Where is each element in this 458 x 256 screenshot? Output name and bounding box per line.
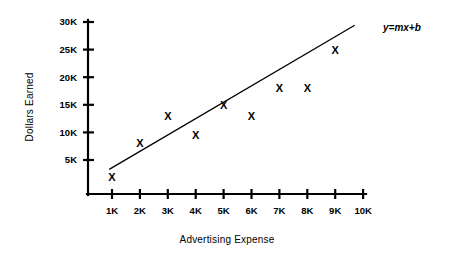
- data-point-marker: X: [136, 137, 144, 149]
- data-point-marker: X: [276, 82, 284, 94]
- y-tick-label: 25K: [60, 44, 78, 55]
- x-tick-label: 7K: [273, 205, 285, 216]
- x-tick-label: 2K: [134, 205, 146, 216]
- x-tick-label: 4K: [190, 205, 202, 216]
- data-point-marker: X: [220, 99, 228, 111]
- x-tick-label: 1K: [106, 205, 118, 216]
- y-tick-label: 20K: [60, 72, 78, 83]
- x-tick-label: 5K: [218, 205, 230, 216]
- data-point-marker: X: [332, 44, 340, 56]
- y-tick-label: 10K: [60, 127, 78, 138]
- x-tick-label: 9K: [329, 205, 341, 216]
- x-tick-label: 6K: [245, 205, 257, 216]
- x-tick-label: 10K: [354, 205, 372, 216]
- trendline-equation-label: y=mx+b: [382, 22, 421, 33]
- y-tick-label: 30K: [60, 16, 78, 27]
- y-axis-title: Dollars Earned: [24, 73, 35, 142]
- y-tick-label: 15K: [60, 99, 78, 110]
- data-point-marker: X: [304, 82, 312, 94]
- data-point-marker: X: [164, 110, 172, 122]
- x-tick-label: 3K: [162, 205, 174, 216]
- x-axis-title: Advertising Expense: [180, 234, 275, 245]
- chart-canvas: 5K10K15K20K25K30K 1K2K3K4K5K6K7K8K9K10K …: [0, 0, 458, 256]
- y-tick-label: 5K: [65, 154, 77, 165]
- data-point-marker: X: [192, 129, 200, 141]
- x-tick-label: 8K: [301, 205, 313, 216]
- data-point-marker: X: [108, 171, 116, 183]
- data-point-marker: X: [248, 110, 256, 122]
- scatter-chart: 5K10K15K20K25K30K 1K2K3K4K5K6K7K8K9K10K …: [0, 0, 458, 256]
